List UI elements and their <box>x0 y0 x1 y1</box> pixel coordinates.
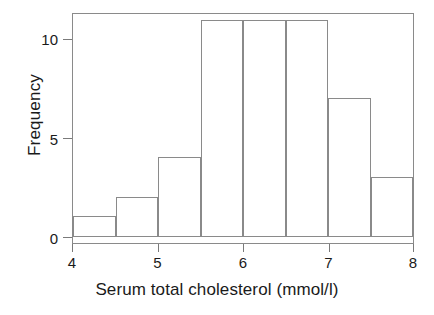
histogram-bar <box>243 20 286 236</box>
y-tick-mark-5 <box>63 138 72 139</box>
histogram-bar <box>73 216 116 236</box>
y-tick-label-0: 0 <box>30 231 58 246</box>
x-axis-right-cap <box>413 237 414 244</box>
y-tick-mark-0 <box>63 237 72 238</box>
x-tick-label-6: 6 <box>223 255 263 270</box>
histogram-bar <box>116 197 159 236</box>
histogram-figure: Frequency 0 5 10 4 5 6 7 8 Serum total c… <box>0 0 434 315</box>
y-tick-label-10: 10 <box>30 32 58 47</box>
x-tick-label-5: 5 <box>138 255 178 270</box>
plot-area <box>72 13 414 237</box>
x-tick-mark-6 <box>243 244 244 252</box>
x-tick-mark-8 <box>413 244 414 252</box>
y-tick-mark-10 <box>63 39 72 40</box>
x-tick-label-8: 8 <box>393 255 433 270</box>
histogram-bar <box>201 20 244 236</box>
x-tick-label-4: 4 <box>52 255 92 270</box>
x-axis-left-cap <box>72 237 73 244</box>
histogram-bar <box>158 157 201 236</box>
histogram-bar <box>286 20 329 236</box>
y-tick-label-5: 5 <box>30 132 58 147</box>
x-tick-label-7: 7 <box>309 255 349 270</box>
x-tick-mark-4 <box>72 244 73 252</box>
histogram-bar <box>371 177 414 236</box>
x-tick-mark-7 <box>329 244 330 252</box>
x-tick-mark-5 <box>158 244 159 252</box>
x-axis-title: Serum total cholesterol (mmol/l) <box>0 280 434 300</box>
histogram-bar <box>328 98 371 236</box>
